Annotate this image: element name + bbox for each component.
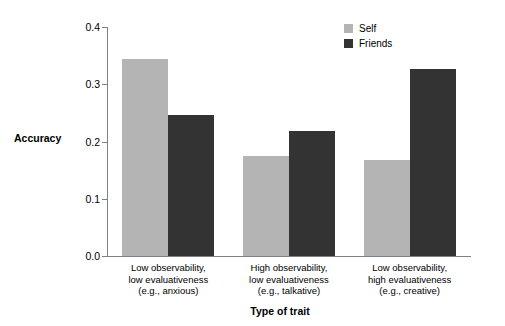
y-axis-tick-label-wrap: 0.0 — [70, 251, 100, 261]
y-axis-tick-label: 0.0 — [74, 251, 100, 261]
bar-self-group-2 — [243, 156, 289, 256]
x-axis-category-label-line: High observability, — [229, 262, 350, 274]
y-axis-tick-label: 0.2 — [74, 137, 100, 147]
y-axis-title: Accuracy — [14, 132, 61, 144]
x-axis-category-label-line: high evaluativeness — [349, 274, 470, 286]
bar-group — [108, 27, 229, 256]
legend-label: Self — [359, 24, 376, 34]
y-axis-tick-label: 0.4 — [74, 22, 100, 32]
x-axis-category-label: Low observability,high evaluativeness(e.… — [349, 262, 470, 297]
y-axis-tick-label-wrap: 0.2 — [70, 137, 100, 147]
y-axis-tick-label-wrap: 0.4 — [70, 22, 100, 32]
bar-chart-figure: Accuracy 0.00.10.20.30.4 Low observabili… — [0, 0, 505, 326]
x-axis-title: Type of trait — [0, 305, 505, 317]
x-axis-category-label: Low observability,low evaluativeness(e.g… — [108, 262, 229, 297]
y-axis-tick-label-wrap: 0.3 — [70, 79, 100, 89]
legend-swatch-icon — [344, 24, 353, 33]
bar-group — [349, 27, 470, 256]
bar-friends-group-1 — [168, 115, 214, 256]
x-axis-category-label-line: (e.g., creative) — [349, 285, 470, 297]
x-axis-category-label: High observability,low evaluativeness(e.… — [229, 262, 350, 297]
y-axis-tick-label-wrap: 0.1 — [70, 194, 100, 204]
x-axis-category-label-line: (e.g., anxious) — [108, 285, 229, 297]
y-axis-tick-label: 0.3 — [74, 79, 100, 89]
bar-group — [229, 27, 350, 256]
legend: SelfFriends — [344, 22, 392, 52]
bar-self-group-3 — [364, 160, 410, 256]
legend-swatch-icon — [344, 39, 353, 48]
x-axis-category-label-line: low evaluativeness — [108, 274, 229, 286]
bar-friends-group-3 — [410, 69, 456, 256]
x-axis-category-label-line: low evaluativeness — [229, 274, 350, 286]
legend-item: Friends — [344, 37, 392, 50]
bar-friends-group-2 — [289, 131, 335, 256]
y-axis-tick-label: 0.1 — [74, 194, 100, 204]
x-axis-category-label-line: (e.g., talkative) — [229, 285, 350, 297]
x-axis-category-label-line: Low observability, — [108, 262, 229, 274]
legend-item: Self — [344, 22, 392, 35]
legend-label: Friends — [359, 39, 392, 49]
x-axis-category-label-line: Low observability, — [349, 262, 470, 274]
bar-self-group-1 — [122, 59, 168, 257]
x-axis-line — [107, 256, 471, 257]
plot-area — [108, 27, 470, 256]
